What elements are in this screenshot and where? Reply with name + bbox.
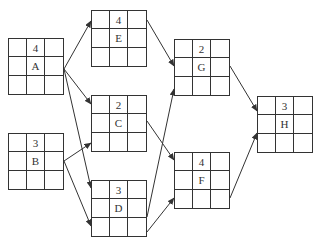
node-empty-cell bbox=[9, 134, 27, 152]
node-h: 3H bbox=[257, 96, 313, 153]
node-empty-cell bbox=[92, 48, 110, 66]
node-empty-cell bbox=[128, 133, 146, 151]
node-empty-cell bbox=[128, 96, 146, 114]
node-empty-cell bbox=[276, 134, 294, 152]
node-empty-cell bbox=[27, 171, 45, 189]
node-empty-cell bbox=[128, 199, 146, 217]
node-empty-cell bbox=[110, 133, 128, 151]
node-empty-cell bbox=[128, 29, 146, 47]
node-label: D bbox=[110, 199, 128, 217]
node-label: E bbox=[110, 29, 128, 47]
node-label: A bbox=[27, 57, 45, 75]
node-duration: 3 bbox=[110, 181, 128, 199]
node-empty-cell bbox=[128, 181, 146, 199]
node-empty-cell bbox=[175, 40, 193, 58]
node-c: 2C bbox=[91, 95, 147, 152]
node-empty-cell bbox=[193, 77, 211, 95]
edge-d-to-f bbox=[147, 198, 174, 232]
node-label: G bbox=[193, 58, 211, 76]
edge-g-to-h bbox=[230, 66, 257, 111]
node-duration: 2 bbox=[110, 96, 128, 114]
node-empty-cell bbox=[92, 199, 110, 217]
node-empty-cell bbox=[175, 153, 193, 171]
node-empty-cell bbox=[211, 58, 229, 76]
node-empty-cell bbox=[9, 171, 27, 189]
node-empty-cell bbox=[128, 11, 146, 29]
node-label: C bbox=[110, 114, 128, 132]
node-empty-cell bbox=[45, 57, 63, 75]
node-empty-cell bbox=[193, 190, 211, 208]
node-g: 2G bbox=[174, 39, 230, 96]
edge-e-to-g bbox=[147, 20, 174, 66]
node-empty-cell bbox=[9, 39, 27, 57]
node-empty-cell bbox=[92, 133, 110, 151]
node-empty-cell bbox=[258, 134, 276, 152]
node-empty-cell bbox=[211, 153, 229, 171]
node-duration: 3 bbox=[27, 134, 45, 152]
node-empty-cell bbox=[92, 29, 110, 47]
node-b: 3B bbox=[8, 133, 64, 190]
node-empty-cell bbox=[211, 171, 229, 189]
node-empty-cell bbox=[92, 96, 110, 114]
node-a: 4A bbox=[8, 38, 64, 95]
node-empty-cell bbox=[128, 48, 146, 66]
node-empty-cell bbox=[211, 40, 229, 58]
node-empty-cell bbox=[294, 134, 312, 152]
node-empty-cell bbox=[258, 115, 276, 133]
node-empty-cell bbox=[175, 190, 193, 208]
edge-b-to-c bbox=[64, 143, 91, 161]
node-d: 3D bbox=[91, 180, 147, 237]
node-duration: 4 bbox=[27, 39, 45, 57]
node-empty-cell bbox=[45, 152, 63, 170]
node-label: B bbox=[27, 152, 45, 170]
node-empty-cell bbox=[9, 57, 27, 75]
node-empty-cell bbox=[211, 77, 229, 95]
node-e: 4E bbox=[91, 10, 147, 67]
node-empty-cell bbox=[294, 97, 312, 115]
node-empty-cell bbox=[45, 39, 63, 57]
node-empty-cell bbox=[110, 218, 128, 236]
node-empty-cell bbox=[27, 76, 45, 94]
node-empty-cell bbox=[92, 218, 110, 236]
node-empty-cell bbox=[175, 77, 193, 95]
node-empty-cell bbox=[45, 134, 63, 152]
edge-a-to-e bbox=[64, 21, 91, 69]
node-empty-cell bbox=[128, 114, 146, 132]
node-duration: 3 bbox=[276, 97, 294, 115]
node-empty-cell bbox=[92, 11, 110, 29]
edge-f-to-h bbox=[230, 133, 257, 198]
node-empty-cell bbox=[258, 97, 276, 115]
node-empty-cell bbox=[9, 76, 27, 94]
node-empty-cell bbox=[45, 76, 63, 94]
node-f: 4F bbox=[174, 152, 230, 209]
node-duration: 2 bbox=[193, 40, 211, 58]
node-label: H bbox=[276, 115, 294, 133]
node-empty-cell bbox=[110, 48, 128, 66]
node-empty-cell bbox=[9, 152, 27, 170]
node-empty-cell bbox=[294, 115, 312, 133]
edge-d-to-g bbox=[147, 89, 174, 217]
node-empty-cell bbox=[92, 181, 110, 199]
node-label: F bbox=[193, 171, 211, 189]
node-empty-cell bbox=[45, 171, 63, 189]
node-duration: 4 bbox=[110, 11, 128, 29]
node-empty-cell bbox=[175, 58, 193, 76]
node-empty-cell bbox=[92, 114, 110, 132]
node-duration: 4 bbox=[193, 153, 211, 171]
node-empty-cell bbox=[128, 218, 146, 236]
node-empty-cell bbox=[211, 190, 229, 208]
node-empty-cell bbox=[175, 171, 193, 189]
